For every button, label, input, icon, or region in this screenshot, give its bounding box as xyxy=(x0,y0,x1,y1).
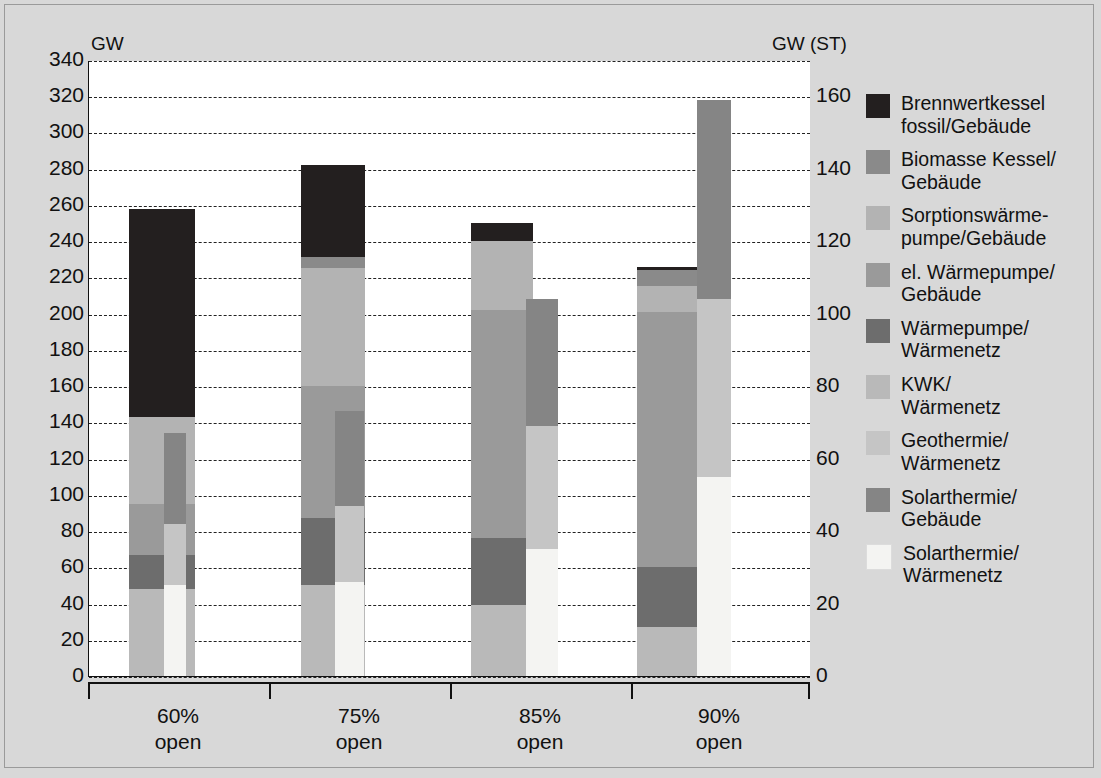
y-tick-label-left: 240 xyxy=(26,228,84,252)
bar-segment xyxy=(637,270,699,286)
y-tick-label-left: 140 xyxy=(26,409,84,433)
legend-swatch-icon xyxy=(866,319,890,343)
x-axis xyxy=(88,682,810,702)
legend-item[interactable]: Sorptionswärme- pumpe/Gebäude xyxy=(866,204,1091,249)
gridline xyxy=(89,677,810,678)
legend-label: el. Wärmepumpe/ Gebäude xyxy=(901,261,1055,306)
bar-segment xyxy=(637,286,699,311)
legend-item[interactable]: Solarthermie/ Wärmenetz xyxy=(866,542,1091,587)
chart-page: GW GW (ST) 34032030028026024022020018016… xyxy=(0,0,1101,778)
bar-segment xyxy=(164,433,186,524)
bar-segment xyxy=(697,299,731,477)
legend-label: Geothermie/ Wärmenetz xyxy=(901,429,1008,474)
bar-narrow-90pct[interactable] xyxy=(697,60,731,676)
x-axis-label: 90% open xyxy=(644,703,794,754)
y-tick-label-left: 220 xyxy=(26,264,84,288)
x-axis-tick xyxy=(269,682,271,699)
bar-segment xyxy=(637,267,699,271)
bar-segment xyxy=(164,524,186,586)
legend-item[interactable]: KWK/ Wärmenetz xyxy=(866,373,1091,418)
y-tick-label-left: 20 xyxy=(26,627,84,651)
bar-segment xyxy=(526,299,558,426)
y-tick-label-left: 280 xyxy=(26,156,84,180)
y-tick-label-left: 340 xyxy=(26,47,84,71)
legend-swatch-icon xyxy=(866,375,890,399)
legend-item[interactable]: Solarthermie/ Gebäude xyxy=(866,486,1091,531)
legend-item[interactable]: el. Wärmepumpe/ Gebäude xyxy=(866,261,1091,306)
legend-swatch-icon xyxy=(866,263,890,287)
bar-segment xyxy=(471,605,533,676)
x-axis-tick xyxy=(88,682,90,699)
y-tick-label-left: 320 xyxy=(26,83,84,107)
bar-segment xyxy=(697,477,731,676)
y-tick-label-left: 80 xyxy=(26,518,84,542)
bar-segment xyxy=(335,582,364,676)
x-axis-tick xyxy=(450,682,452,699)
legend-swatch-icon xyxy=(866,94,890,118)
bar-segment xyxy=(526,426,558,549)
y-tick-label-left: 260 xyxy=(26,192,84,216)
bar-segment xyxy=(471,241,533,310)
y-tick-label-left: 300 xyxy=(26,119,84,143)
y-tick-label-left: 200 xyxy=(26,301,84,325)
x-axis-label: 85% open xyxy=(465,703,615,754)
legend-label: Brennwertkessel fossil/Gebäude xyxy=(901,92,1045,137)
bar-segment xyxy=(471,310,533,538)
bar-narrow-75pct[interactable] xyxy=(335,60,364,676)
y-tick-label-left: 0 xyxy=(26,663,84,687)
legend-label: Wärmepumpe/ Wärmenetz xyxy=(901,317,1029,362)
y-tick-label-left: 40 xyxy=(26,591,84,615)
y-tick-label-left: 120 xyxy=(26,446,84,470)
left-axis-caption: GW xyxy=(91,33,124,55)
legend: Brennwertkessel fossil/GebäudeBiomasse K… xyxy=(866,92,1091,598)
x-axis-label: 75% open xyxy=(284,703,434,754)
x-axis-baseline xyxy=(88,682,810,684)
legend-label: KWK/ Wärmenetz xyxy=(901,373,1001,418)
right-axis-caption: GW (ST) xyxy=(772,33,847,55)
legend-item[interactable]: Wärmepumpe/ Wärmenetz xyxy=(866,317,1091,362)
bar-wide-85pct[interactable] xyxy=(471,60,533,676)
bar-segment xyxy=(471,223,533,241)
bar-segment xyxy=(471,538,533,605)
bar-segment xyxy=(637,627,699,676)
legend-label: Sorptionswärme- pumpe/Gebäude xyxy=(901,204,1048,249)
legend-swatch-icon xyxy=(866,431,890,455)
bar-segment xyxy=(335,506,364,582)
legend-item[interactable]: Brennwertkessel fossil/Gebäude xyxy=(866,92,1091,137)
legend-swatch-icon xyxy=(866,544,892,570)
x-axis-tick xyxy=(631,682,633,699)
legend-swatch-icon xyxy=(866,150,890,174)
legend-label: Solarthermie/ Gebäude xyxy=(901,486,1017,531)
bar-segment xyxy=(526,549,558,676)
plot-area xyxy=(88,61,810,677)
y-tick-label-left: 160 xyxy=(26,373,84,397)
bar-wide-90pct[interactable] xyxy=(637,60,699,676)
x-axis-tick xyxy=(808,682,810,699)
bar-segment xyxy=(697,100,731,299)
x-axis-label: 60% open xyxy=(103,703,253,754)
legend-item[interactable]: Geothermie/ Wärmenetz xyxy=(866,429,1091,474)
y-tick-label-left: 180 xyxy=(26,337,84,361)
bar-narrow-85pct[interactable] xyxy=(526,60,558,676)
y-tick-label-left: 60 xyxy=(26,554,84,578)
bar-segment xyxy=(164,585,186,676)
bar-segment xyxy=(637,312,699,567)
legend-swatch-icon xyxy=(866,206,890,230)
bar-segment xyxy=(637,567,699,627)
y-tick-label-left: 100 xyxy=(26,482,84,506)
y-tick-label-right: 0 xyxy=(816,663,876,687)
legend-label: Biomasse Kessel/ Gebäude xyxy=(901,148,1056,193)
bar-segment xyxy=(335,411,364,505)
legend-item[interactable]: Biomasse Kessel/ Gebäude xyxy=(866,148,1091,193)
bar-narrow-60pct[interactable] xyxy=(164,60,186,676)
legend-label: Solarthermie/ Wärmenetz xyxy=(903,542,1019,587)
legend-swatch-icon xyxy=(866,488,890,512)
